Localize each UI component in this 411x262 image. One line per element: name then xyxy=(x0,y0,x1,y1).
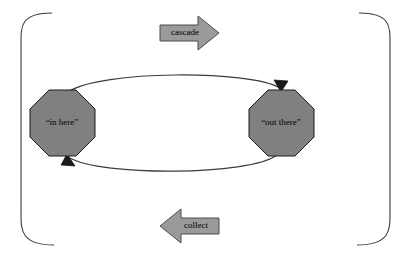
node-in-here-label: “in here” xyxy=(46,117,79,127)
bottom-connector-path xyxy=(70,155,277,171)
diagram-canvas: “in here” “out there” cascade collect xyxy=(0,0,411,262)
top-connector-path xyxy=(68,75,280,92)
cascade-arrow-label: cascade xyxy=(171,27,199,37)
right-bracket xyxy=(357,13,390,245)
diagram-svg: “in here” “out there” cascade collect xyxy=(0,0,411,262)
node-out-there-label: “out there” xyxy=(261,117,301,127)
collect-arrow-label: collect xyxy=(184,220,208,230)
